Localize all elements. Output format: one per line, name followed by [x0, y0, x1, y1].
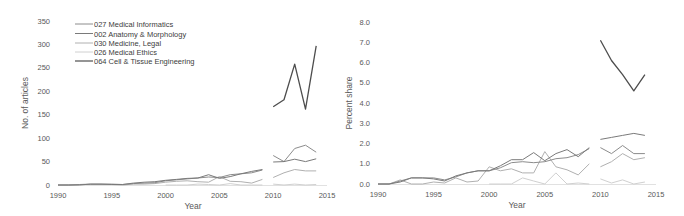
x-tick-label: 2000	[157, 191, 174, 200]
y-tick-label: 5.0	[360, 78, 370, 87]
x-axis-title: Year	[184, 201, 201, 211]
series-line	[600, 146, 645, 154]
y-tick-label: 7.0	[360, 38, 370, 47]
y-tick-label: 3.0	[360, 119, 370, 128]
y-tick-label: 150	[37, 110, 50, 119]
x-tick-label: 2005	[211, 191, 228, 200]
y-tick-label: 2.0	[360, 139, 370, 148]
x-tick-label: 2010	[592, 190, 609, 199]
series-line	[378, 148, 589, 184]
series-lines	[378, 40, 645, 184]
y-tick-label: 0.0	[360, 180, 370, 189]
y-tick-label: 250	[37, 63, 50, 72]
series-line	[600, 154, 645, 167]
legend: 027 Medical Informatics 002 Anatomy & Mo…	[75, 20, 194, 66]
legend-label-064: 064 Cell & Tissue Engineering	[94, 57, 194, 66]
series-line	[273, 184, 316, 185]
y-axis-ticks: 0.01.02.03.04.05.06.07.08.0	[360, 18, 370, 189]
x-axis-title: Year	[508, 200, 525, 210]
y-tick-label: 0	[46, 181, 50, 190]
x-tick-label: 2015	[648, 190, 665, 199]
x-axis-ticks: 199019952000200520102015	[50, 191, 336, 200]
x-tick-label: 2015	[319, 191, 336, 200]
y-tick-label: 50	[42, 157, 50, 166]
percent-share-chart: 0.01.02.03.04.05.06.07.08.0 199019952000…	[342, 0, 684, 216]
legend-label-027: 027 Medical Informatics	[94, 20, 173, 29]
y-tick-label: 1.0	[360, 159, 370, 168]
y-tick-label: 4.0	[360, 99, 370, 108]
x-tick-label: 1990	[370, 190, 387, 199]
x-tick-label: 2000	[481, 190, 498, 199]
x-tick-label: 2005	[536, 190, 553, 199]
legend-label-026: 026 Medical Ethics	[94, 48, 157, 57]
figure: 050100150200250300350 199019952000200520…	[0, 0, 684, 216]
articles-count-chart: 050100150200250300350 199019952000200520…	[0, 0, 342, 216]
series-line	[489, 173, 589, 184]
y-axis-ticks: 050100150200250300350	[37, 17, 50, 190]
series-lines	[58, 46, 316, 185]
y-axis-title: Percent share	[344, 76, 354, 129]
y-tick-label: 300	[37, 40, 50, 49]
legend-label-002: 002 Anatomy & Morphology	[94, 30, 186, 39]
series-line	[600, 133, 645, 139]
x-tick-label: 1990	[50, 191, 67, 200]
x-tick-label: 2010	[265, 191, 282, 200]
y-tick-label: 8.0	[360, 18, 370, 27]
y-tick-label: 200	[37, 87, 50, 96]
series-line	[600, 40, 645, 91]
series-line	[166, 184, 263, 185]
y-axis-title: No. of articles	[20, 77, 30, 129]
series-line	[273, 46, 316, 109]
legend-label-030: 030 Medicine, Legal	[94, 39, 161, 48]
y-tick-label: 6.0	[360, 58, 370, 67]
y-tick-label: 100	[37, 134, 50, 143]
x-axis-ticks: 199019952000200520102015	[370, 190, 665, 199]
series-line	[600, 179, 645, 184]
x-tick-label: 1995	[103, 191, 120, 200]
series-line	[273, 170, 316, 178]
series-line	[378, 152, 589, 184]
y-tick-label: 350	[37, 17, 50, 26]
x-tick-label: 1995	[425, 190, 442, 199]
